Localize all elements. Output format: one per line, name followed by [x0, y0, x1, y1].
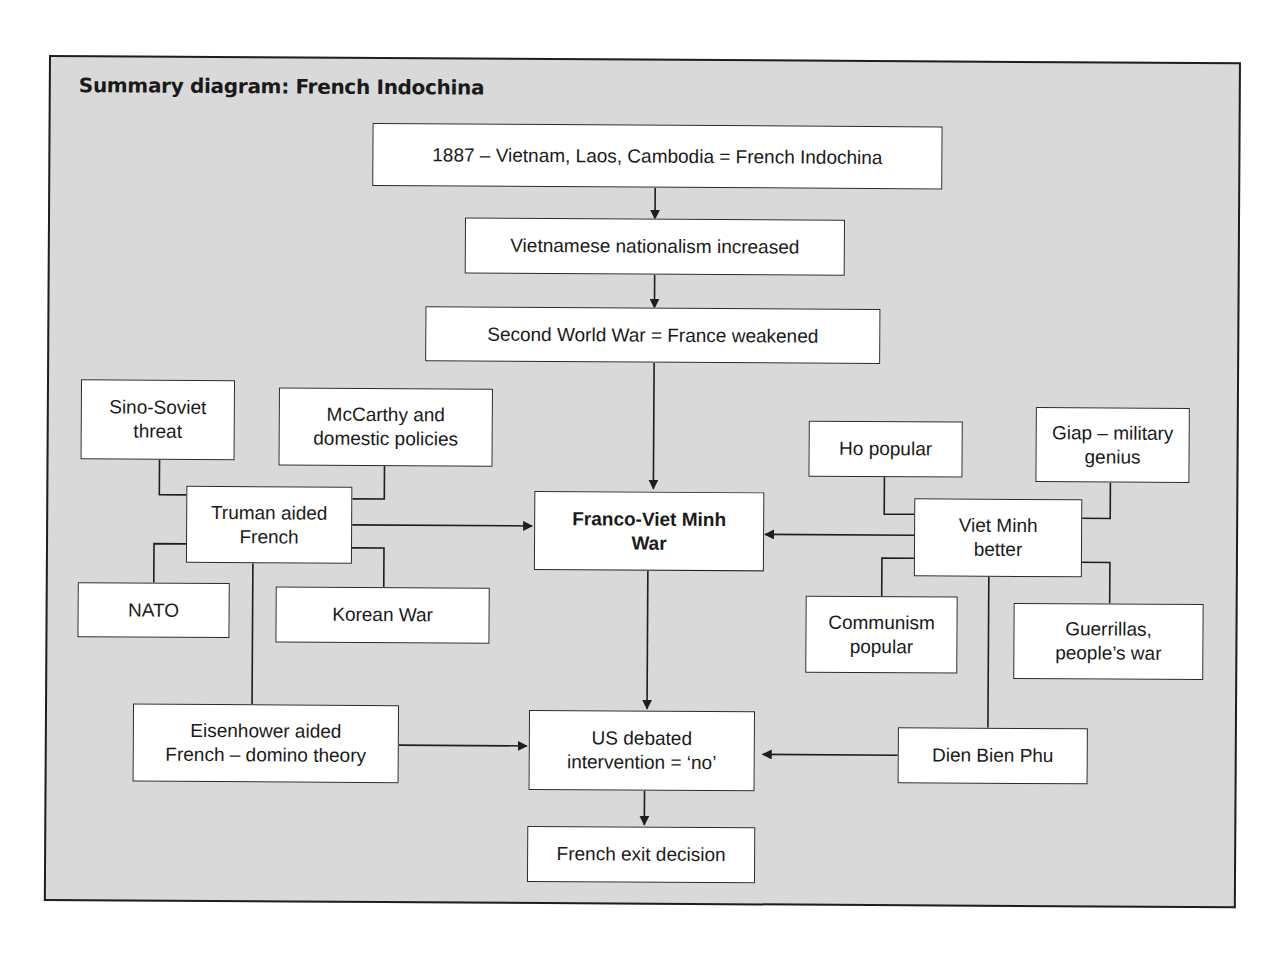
node-label: Truman aided French — [211, 500, 328, 549]
node-label: Dien Bien Phu — [932, 743, 1054, 768]
summary-diagram-panel: Summary diagram: French Indochina — [44, 55, 1241, 908]
node-label: Sino-Soviet threat — [109, 395, 206, 444]
node-us-debated-intervention: US debated intervention = ‘no’ — [529, 710, 755, 791]
node-communism-popular: Communism popular — [805, 596, 957, 674]
node-ho-popular: Ho popular — [808, 421, 962, 478]
node-french-exit-decision: French exit decision — [527, 826, 755, 883]
node-giap-military-genius: Giap – military genius — [1035, 407, 1189, 483]
node-dien-bien-phu: Dien Bien Phu — [898, 727, 1088, 784]
node-eisenhower-domino-theory: Eisenhower aided French – domino theory — [133, 704, 399, 784]
node-label: Vietnamese nationalism increased — [510, 234, 799, 260]
node-mccarthy: McCarthy and domestic policies — [278, 387, 492, 466]
node-second-world-war: Second World War = France weakened — [425, 306, 880, 364]
node-viet-minh-better: Viet Minh better — [914, 498, 1082, 577]
node-label: Franco-Viet Minh War — [572, 507, 726, 556]
node-label: Second World War = France weakened — [487, 322, 818, 348]
node-label: NATO — [128, 598, 179, 622]
node-label: 1887 – Vietnam, Laos, Cambodia = French … — [432, 143, 882, 170]
node-label: French exit decision — [557, 842, 726, 867]
node-1887-french-indochina: 1887 – Vietnam, Laos, Cambodia = French … — [372, 123, 942, 189]
node-nato: NATO — [77, 582, 229, 638]
node-label: US debated intervention = ‘no’ — [567, 726, 717, 775]
node-truman-aided-french: Truman aided French — [186, 486, 352, 564]
node-label: Communism popular — [828, 610, 935, 659]
node-label: McCarthy and domestic policies — [313, 403, 458, 452]
node-guerrillas-peoples-war: Guerrillas, people’s war — [1013, 603, 1203, 680]
node-label: Giap – military genius — [1052, 421, 1174, 470]
node-franco-viet-minh-war: Franco-Viet Minh War — [534, 491, 764, 571]
node-label: Korean War — [332, 603, 433, 628]
node-label: Guerrillas, people’s war — [1055, 617, 1162, 666]
node-label: Ho popular — [839, 437, 932, 462]
node-label: Eisenhower aided French – domino theory — [165, 719, 366, 768]
node-vietnamese-nationalism: Vietnamese nationalism increased — [465, 218, 845, 276]
node-korean-war: Korean War — [275, 586, 489, 643]
node-label: Viet Minh better — [958, 514, 1037, 562]
node-sino-soviet-threat: Sino-Soviet threat — [81, 379, 235, 460]
